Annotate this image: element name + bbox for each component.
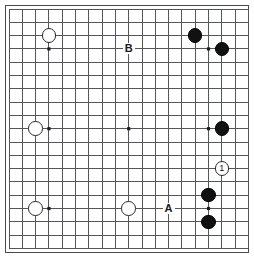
black-stone[interactable] [201, 188, 216, 203]
black-stone[interactable] [201, 215, 216, 230]
white-stone[interactable] [121, 201, 136, 216]
black-stone[interactable] [215, 42, 230, 57]
stone-move-number: 1 [215, 161, 230, 176]
board-marker-b: B [123, 43, 135, 54]
white-stone[interactable] [42, 28, 57, 43]
white-stone[interactable] [28, 121, 43, 136]
black-stone[interactable] [215, 121, 230, 136]
go-board-diagram: 1 BA [0, 0, 254, 265]
white-stone[interactable] [28, 201, 43, 216]
board-marker-a: A [163, 203, 175, 214]
